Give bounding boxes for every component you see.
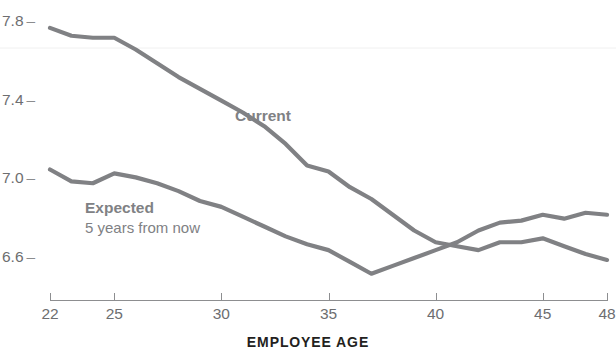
y-tick-label: 7.4– <box>2 91 46 109</box>
x-tick-mark <box>607 293 608 301</box>
x-tick-label: 40 <box>427 305 444 323</box>
y-tick-label: 6.6– <box>2 248 46 266</box>
x-tick-mark <box>50 293 51 301</box>
y-tick-value: 7.4 <box>2 91 24 108</box>
y-tick-mark: – <box>24 248 36 265</box>
x-axis-title: EMPLOYEE AGE <box>0 334 616 350</box>
x-tick-mark <box>329 293 330 301</box>
series-label-current: Current <box>235 107 291 125</box>
series-label-expected: Expected 5 years from now <box>85 199 200 236</box>
x-tick-label: 25 <box>106 305 123 323</box>
x-tick-label: 22 <box>41 305 58 323</box>
series-sublabel-expected: 5 years from now <box>85 219 200 236</box>
x-tick-mark <box>436 293 437 301</box>
x-tick-label: 48 <box>598 305 615 323</box>
y-tick-mark: – <box>24 12 36 29</box>
x-tick-label: 45 <box>534 305 551 323</box>
y-tick-label: 7.8– <box>2 12 46 30</box>
x-tick-label: 35 <box>320 305 337 323</box>
y-tick-mark: – <box>24 169 36 186</box>
y-tick-label: 7.0– <box>2 169 46 187</box>
series-name-current: Current <box>235 107 291 124</box>
y-tick-value: 7.0 <box>2 169 24 186</box>
x-tick-mark <box>114 293 115 301</box>
y-tick-value: 6.6 <box>2 248 24 265</box>
x-tick-mark <box>221 293 222 301</box>
y-tick-value: 7.8 <box>2 12 24 29</box>
y-tick-mark: – <box>24 91 36 108</box>
series-name-expected: Expected <box>85 199 154 216</box>
x-tick-label: 30 <box>213 305 230 323</box>
line-chart: AVERAGE SATISFACTION RATING 7.8–7.4–7.0–… <box>0 0 616 358</box>
plot-area <box>0 0 616 358</box>
x-tick-mark <box>543 293 544 301</box>
